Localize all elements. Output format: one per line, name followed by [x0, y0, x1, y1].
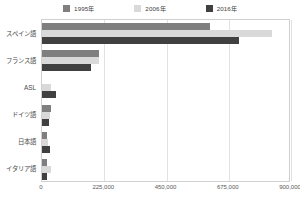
bar-2006-2[interactable]	[42, 84, 51, 91]
y-axis-label-1: フランス語	[6, 55, 36, 64]
bar-2016-4[interactable]	[42, 146, 50, 153]
bar-1995-5[interactable]	[42, 159, 47, 166]
gridline	[167, 20, 168, 181]
bar-2006-1[interactable]	[42, 57, 99, 64]
y-axis-label-3: ドイツ語	[12, 110, 36, 119]
gridline	[229, 20, 230, 181]
bar-2006-0[interactable]	[42, 30, 272, 37]
x-axis-tick-0: 0	[39, 184, 42, 190]
bar-chart: 1995年 2006年 2016年 スペイン語フランス語ASLドイツ語日本語イタ…	[0, 0, 300, 202]
x-axis-tick-4: 900,000	[279, 184, 300, 190]
x-axis-labels: 0225,000450,000675,000900,000	[0, 184, 300, 196]
x-axis-tick-2: 450,000	[155, 184, 177, 190]
bar-2016-1[interactable]	[42, 64, 91, 71]
legend-label-1995: 1995年	[74, 4, 94, 13]
y-axis-label-0: スペイン語	[6, 28, 36, 37]
y-axis-label-2: ASL	[24, 83, 36, 90]
legend-item-2016[interactable]: 2016年	[206, 4, 237, 13]
bar-1995-4[interactable]	[42, 132, 47, 139]
chart-legend: 1995年 2006年 2016年	[0, 0, 300, 16]
bar-2016-2[interactable]	[42, 91, 56, 98]
legend-swatch-2016	[206, 5, 213, 12]
bar-2016-0[interactable]	[42, 37, 239, 44]
legend-swatch-2006	[134, 5, 141, 12]
bar-1995-3[interactable]	[42, 105, 51, 112]
bar-2006-3[interactable]	[42, 112, 50, 119]
bar-1995-0[interactable]	[42, 23, 210, 30]
bar-2006-5[interactable]	[42, 166, 51, 173]
legend-item-1995[interactable]: 1995年	[63, 4, 94, 13]
y-axis-label-4: 日本語	[18, 137, 36, 146]
gridline	[104, 20, 105, 181]
bar-2016-3[interactable]	[42, 119, 49, 126]
y-axis-labels: スペイン語フランス語ASLドイツ語日本語イタリア語	[0, 19, 39, 182]
y-axis-label-5: イタリア語	[6, 164, 36, 173]
legend-item-2006[interactable]: 2006年	[134, 4, 165, 13]
x-axis-tick-3: 675,000	[217, 184, 239, 190]
bar-1995-1[interactable]	[42, 50, 99, 57]
legend-label-2016: 2016年	[217, 4, 237, 13]
x-axis-tick-1: 225,000	[92, 184, 114, 190]
bar-2006-4[interactable]	[42, 139, 48, 146]
bar-2016-5[interactable]	[42, 173, 47, 180]
plot-area	[41, 19, 290, 182]
gridline	[291, 20, 292, 181]
legend-label-2006: 2006年	[145, 4, 165, 13]
legend-swatch-1995	[63, 5, 70, 12]
